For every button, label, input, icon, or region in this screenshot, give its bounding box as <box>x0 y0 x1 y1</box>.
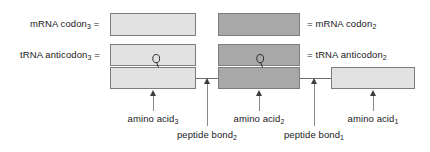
amino-acid-2-label: amino acid2 <box>234 113 285 124</box>
trna-anticodon-2-text: tRNA anticodon <box>315 49 382 60</box>
mrna-codon-3-label: mRNA codon3 = <box>30 18 99 29</box>
peptide-bond-2-subscript: 2 <box>233 134 237 141</box>
peptide-bond-2-label: peptide bond2 <box>177 129 237 140</box>
trna-anticodon-3-text: tRNA anticodon <box>20 49 87 60</box>
amino-acid-1-subscript: 1 <box>394 118 398 125</box>
peptide-bond-1-leader-line <box>314 84 315 126</box>
amino-acid-3-leader-line <box>153 96 154 111</box>
amino-acid-3-text: amino acid <box>128 113 175 124</box>
trna-anticodon-3-label: tRNA anticodon3 = <box>20 49 100 60</box>
peptide-bond-2-leader-line <box>207 84 208 126</box>
amino-acid-2-leader-line <box>259 96 260 111</box>
trna-anticodon-2-subscript: 2 <box>383 54 387 61</box>
mrna-codon-3-box <box>110 13 196 36</box>
amino-acid-3-box <box>110 67 196 89</box>
mrna-codon-3-subscript: 3 <box>87 23 91 30</box>
trna-anticodon-3-equals: = <box>94 49 100 60</box>
peptide-bond-2-text: peptide bond <box>177 129 233 140</box>
amino-acid-3-label: amino acid3 <box>128 113 179 124</box>
mrna-codon-2-equals: = <box>307 18 313 29</box>
mrna-codon-2-text: mRNA codon <box>315 18 372 29</box>
translation-diagram: mRNA codon3 = = mRNA codon2 tRNA anticod… <box>0 0 430 152</box>
trna-stem-loop-2-icon <box>256 54 265 68</box>
trna-anticodon-2-label: = tRNA anticodon2 <box>307 49 387 60</box>
amino-acid-1-label: amino acid1 <box>348 113 399 124</box>
amino-acid-2-text: amino acid <box>234 113 281 124</box>
amino-acid-1-text: amino acid <box>348 113 395 124</box>
amino-acid-3-subscript: 3 <box>174 118 178 125</box>
amino-acid-2-box <box>218 67 300 89</box>
trna-anticodon-3-subscript: 3 <box>87 54 91 61</box>
amino-acid-1-leader-line <box>373 96 374 111</box>
mrna-codon-2-label: = mRNA codon2 <box>307 18 376 29</box>
peptide-bond-1-text: peptide bond <box>284 129 340 140</box>
mrna-codon-3-equals: = <box>94 18 100 29</box>
mrna-codon-2-box <box>218 13 300 36</box>
peptide-bond-1-subscript: 1 <box>340 134 344 141</box>
trna-stem-loop-3-icon <box>152 54 161 68</box>
mrna-codon-3-text: mRNA codon <box>30 18 87 29</box>
trna-anticodon-2-equals: = <box>307 49 313 60</box>
peptide-bond-1-label: peptide bond1 <box>284 129 344 140</box>
amino-acid-1-box <box>331 67 415 89</box>
mrna-codon-2-subscript: 2 <box>372 23 376 30</box>
amino-acid-2-subscript: 2 <box>280 118 284 125</box>
